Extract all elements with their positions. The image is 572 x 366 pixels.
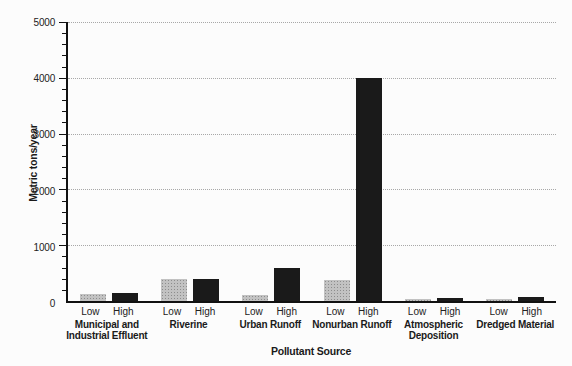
- minor-tick-3800: [62, 89, 66, 90]
- low-high-labels-1: LowHigh: [77, 306, 137, 317]
- low-label-2: Low: [159, 306, 186, 317]
- high-label-2: High: [192, 306, 219, 317]
- minor-tick-4400: [62, 55, 66, 56]
- x-category-column-4: LowHighNonurban Runoff: [311, 306, 393, 341]
- low-high-labels-5: LowHigh: [404, 306, 464, 317]
- minor-tick-2600: [62, 156, 66, 157]
- bar-low-4: [324, 280, 350, 301]
- major-tick-2000: [59, 189, 66, 190]
- minor-tick-4800: [62, 33, 66, 34]
- low-label-1: Low: [77, 306, 104, 317]
- bar-high-3: [274, 268, 300, 301]
- bar-chart-figure: Metric tons/year 010002000300040005000 L…: [0, 0, 572, 366]
- high-label-3: High: [273, 306, 300, 317]
- high-label-5: High: [437, 306, 464, 317]
- y-tick-label-4000: 4000: [34, 73, 55, 84]
- y-tick-label-0: 0: [50, 298, 55, 309]
- minor-tick-200: [62, 290, 66, 291]
- low-label-6: Low: [485, 306, 512, 317]
- minor-tick-4600: [62, 44, 66, 45]
- category-name-2: Riverine: [170, 319, 208, 330]
- bar-group-5: [393, 22, 474, 301]
- minor-tick-2800: [62, 145, 66, 146]
- high-label-1: High: [110, 306, 137, 317]
- low-label-5: Low: [404, 306, 431, 317]
- bar-group-1: [68, 22, 149, 301]
- x-axis-category-labels: LowHighMunicipal and Industrial Effluent…: [66, 306, 556, 341]
- bar-group-2: [149, 22, 230, 301]
- minor-tick-4200: [62, 67, 66, 68]
- bar-high-5: [437, 298, 463, 301]
- low-high-labels-4: LowHigh: [322, 306, 382, 317]
- x-category-column-2: LowHighRiverine: [148, 306, 230, 341]
- minor-tick-2200: [62, 178, 66, 179]
- x-axis-title: Pollutant Source: [66, 345, 556, 357]
- low-high-labels-6: LowHigh: [485, 306, 545, 317]
- bar-high-1: [112, 293, 138, 301]
- category-name-4: Nonurban Runoff: [312, 319, 391, 330]
- minor-tick-3600: [62, 100, 66, 101]
- minor-tick-1400: [62, 223, 66, 224]
- bar-group-6: [475, 22, 556, 301]
- high-label-6: High: [518, 306, 545, 317]
- minor-tick-2400: [62, 167, 66, 168]
- bar-low-6: [486, 299, 512, 301]
- minor-tick-400: [62, 279, 66, 280]
- minor-tick-1200: [62, 234, 66, 235]
- bar-group-4: [312, 22, 393, 301]
- x-category-column-5: LowHighAtmospheric Deposition: [393, 306, 475, 341]
- y-tick-label-1000: 1000: [34, 241, 55, 252]
- bar-group-3: [231, 22, 312, 301]
- bars: [68, 22, 556, 301]
- y-tick-label-5000: 5000: [34, 17, 55, 28]
- low-high-labels-2: LowHigh: [159, 306, 219, 317]
- bar-high-4: [356, 78, 382, 301]
- x-category-column-1: LowHighMunicipal and Industrial Effluent: [66, 306, 148, 341]
- minor-tick-1600: [62, 212, 66, 213]
- bar-high-6: [518, 297, 544, 301]
- major-tick-4000: [59, 78, 66, 79]
- category-name-3: Urban Runoff: [239, 319, 300, 330]
- major-tick-5000: [59, 22, 66, 23]
- major-tick-3000: [59, 134, 66, 135]
- category-name-6: Dredged Material: [476, 319, 554, 330]
- bar-high-2: [193, 279, 219, 301]
- low-label-4: Low: [322, 306, 349, 317]
- category-name-1: Municipal and Industrial Effluent: [66, 319, 147, 341]
- major-tick-1000: [59, 245, 66, 246]
- bar-low-3: [242, 295, 268, 301]
- x-category-column-3: LowHighUrban Runoff: [229, 306, 311, 341]
- bar-low-1: [80, 294, 106, 301]
- plot-area: [66, 22, 556, 303]
- y-tick-label-3000: 3000: [34, 129, 55, 140]
- category-name-5: Atmospheric Deposition: [404, 319, 463, 341]
- minor-tick-3400: [62, 111, 66, 112]
- high-label-4: High: [355, 306, 382, 317]
- low-label-3: Low: [240, 306, 267, 317]
- y-tick-label-2000: 2000: [34, 185, 55, 196]
- bar-low-5: [405, 299, 431, 301]
- minor-tick-800: [62, 256, 66, 257]
- y-axis-tick-labels: 010002000300040005000: [0, 22, 55, 303]
- x-category-column-6: LowHighDredged Material: [474, 306, 556, 341]
- minor-tick-1800: [62, 201, 66, 202]
- minor-tick-600: [62, 268, 66, 269]
- low-high-labels-3: LowHigh: [240, 306, 300, 317]
- minor-tick-3200: [62, 122, 66, 123]
- bar-low-2: [161, 279, 187, 301]
